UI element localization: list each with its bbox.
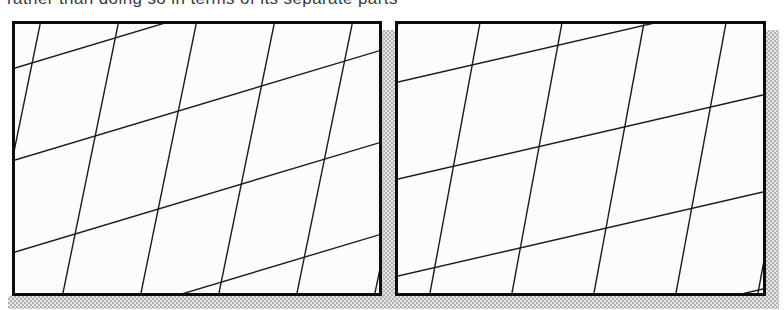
- hatch-line: [398, 289, 763, 293]
- hatch-line: [15, 51, 379, 160]
- hatch-line: [63, 24, 118, 293]
- caption-fragment: rather than doing so in terms of its sep…: [7, 0, 437, 8]
- shadow-strip-gap: [381, 30, 395, 297]
- hatch-line: [398, 95, 763, 179]
- hatch-line: [141, 24, 196, 293]
- plaid-hatch-left: [15, 24, 379, 293]
- hatch-line: [15, 143, 379, 252]
- hatch-line: [676, 24, 726, 293]
- plaid-panel-right: [395, 21, 766, 296]
- plaid-hatch-right: [398, 24, 763, 293]
- shadow-strip-right: [766, 30, 779, 297]
- hatch-line: [15, 24, 379, 68]
- hatch-line: [512, 24, 562, 293]
- shadow-band-bottom: [8, 296, 779, 309]
- hatch-line: [375, 24, 379, 293]
- hatch-line: [758, 24, 763, 293]
- hatch-line: [398, 192, 763, 276]
- plaid-panel-left: [12, 21, 382, 296]
- hatch-line: [219, 24, 274, 293]
- scanned-figure: rather than doing so in terms of its sep…: [0, 0, 784, 310]
- caption-text: rather than doing so in terms of its sep…: [7, 0, 437, 7]
- hatch-line: [594, 24, 644, 293]
- hatch-line: [398, 24, 763, 82]
